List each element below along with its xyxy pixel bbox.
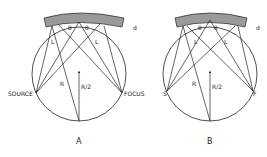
path-length-label-left: L [194,38,198,45]
angle-label-right: θ [85,24,89,31]
angle-label-left: θ [68,24,72,31]
thickness-label: d [133,24,137,31]
radius-label: R [192,80,196,87]
path-length-label-right: L [95,38,99,45]
diagram-canvas: SOURCE FOCUS R R/2 L L θ θ d A S F R R/2… [0,0,267,157]
focus-label: F [253,90,257,97]
source-label: S [163,90,167,97]
bent-crystal [175,13,247,27]
thickness-label: d [256,24,260,31]
focus-label: FOCUS [124,90,145,97]
source-label: SOURCE [8,90,33,97]
path-length-label-left: L [51,38,55,45]
caption-a: A [76,137,82,146]
angle-label-right: θ [214,24,218,31]
bent-crystal [44,13,124,27]
path-length-label-right: L [224,38,228,45]
panel-b: S F R R/2 L L θ θ d B [163,13,260,146]
angle-label-left: θ [198,24,202,31]
half-radius-label: R/2 [81,83,91,90]
panel-a: SOURCE FOCUS R R/2 L L θ θ d A [8,13,145,146]
half-radius-label: R/2 [212,83,222,90]
radius-label: R [60,80,64,87]
caption-b: B [207,137,213,146]
